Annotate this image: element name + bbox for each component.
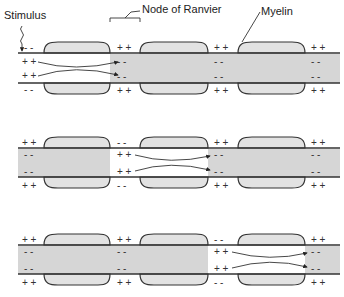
svg-text:- -: - - (24, 84, 33, 95)
svg-text:- -: - - (24, 246, 33, 257)
depolarized-region (110, 54, 340, 83)
panel-stage-1: - -+ ++ +- - + +- -- -+ + + +- -- -+ + +… (18, 11, 340, 96)
svg-text:- -: - - (117, 180, 126, 191)
svg-text:- -: - - (311, 149, 320, 160)
svg-text:+ +: + + (214, 263, 229, 274)
svg-text:+ +: + + (22, 234, 37, 245)
saltatory-conduction-diagram: - -+ ++ +- - + +- -- -+ + + +- -- -+ + +… (0, 0, 344, 297)
svg-text:- -: - - (311, 71, 320, 82)
node-bracket (110, 11, 140, 22)
svg-text:+ +: + + (214, 180, 229, 191)
svg-text:+ +: + + (117, 277, 132, 288)
svg-text:+ +: + + (311, 180, 326, 191)
svg-text:+ +: + + (117, 166, 132, 177)
svg-text:- -: - - (311, 263, 320, 274)
svg-text:+ +: + + (214, 85, 229, 96)
svg-text:+ +: + + (311, 234, 326, 245)
svg-text:- -: - - (214, 234, 223, 245)
svg-text:+ +: + + (22, 137, 37, 148)
svg-text:- -: - - (24, 42, 33, 53)
svg-text:+ +: + + (311, 42, 326, 53)
svg-text:+ +: + + (22, 56, 37, 67)
svg-text:- -: - - (214, 56, 223, 67)
svg-text:+ +: + + (117, 42, 132, 53)
stimulus-label: Stimulus (4, 9, 46, 21)
svg-text:+ +: + + (22, 70, 37, 81)
svg-text:- -: - - (311, 166, 320, 177)
panel-stage-3: + +- -- -+ + + +- -- -+ + - -+ ++ +- - +… (18, 234, 340, 288)
svg-text:- -: - - (117, 263, 126, 274)
svg-text:- -: - - (117, 56, 126, 67)
svg-text:- -: - - (214, 149, 223, 160)
svg-text:- -: - - (117, 137, 126, 148)
svg-text:+ +: + + (117, 234, 132, 245)
svg-text:- -: - - (24, 263, 33, 274)
svg-text:- -: - - (311, 56, 320, 67)
svg-text:+ +: + + (311, 277, 326, 288)
svg-text:- -: - - (214, 277, 223, 288)
local-current-arrows (135, 155, 210, 171)
myelin-label: Myelin (261, 5, 293, 17)
svg-text:- -: - - (311, 246, 320, 257)
depolarized-region (18, 246, 208, 274)
svg-text:+ +: + + (311, 85, 326, 96)
svg-text:+ +: + + (214, 137, 229, 148)
local-current-arrows (38, 62, 118, 76)
svg-text:+ +: + + (22, 180, 37, 191)
svg-text:- -: - - (214, 166, 223, 177)
svg-text:+ +: + + (117, 149, 132, 160)
node-of-ranvier-label: Node of Ranvier (142, 3, 222, 15)
svg-text:- -: - - (117, 71, 126, 82)
svg-text:- -: - - (24, 149, 33, 160)
svg-text:- -: - - (214, 71, 223, 82)
local-current-arrows (232, 252, 307, 268)
svg-text:+ +: + + (214, 42, 229, 53)
svg-text:+ +: + + (311, 137, 326, 148)
svg-text:- -: - - (24, 166, 33, 177)
svg-text:+ +: + + (214, 246, 229, 257)
svg-text:- -: - - (117, 246, 126, 257)
myelin-leader-line (242, 12, 260, 42)
svg-text:+ +: + + (117, 85, 132, 96)
svg-text:+ +: + + (22, 277, 37, 288)
panel-stage-2: + +- -- -+ + - -+ ++ +- - + +- -- -+ + +… (18, 137, 340, 191)
